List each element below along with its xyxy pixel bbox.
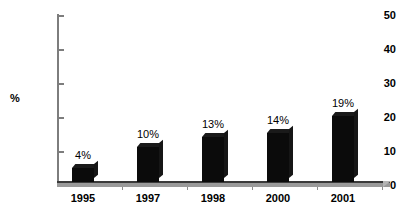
data-label-2001: 19% bbox=[318, 98, 368, 109]
bar-1997[interactable] bbox=[137, 147, 159, 182]
y-tick-label-40: 40 bbox=[352, 44, 404, 55]
y-tick-mark-40 bbox=[59, 49, 64, 51]
floor-right-bevel bbox=[383, 181, 391, 187]
y-tick-label-50: 50 bbox=[352, 10, 404, 21]
bar-side-face bbox=[224, 130, 228, 178]
y-tick-label-30: 30 bbox=[352, 78, 404, 89]
x-axis-label-2001: 2001 bbox=[318, 193, 368, 204]
y-tick-label-10: 10 bbox=[352, 146, 404, 157]
x-axis-label-1997: 1997 bbox=[123, 193, 173, 204]
x-axis-label-1998: 1998 bbox=[188, 193, 238, 204]
x-axis-label-1995: 1995 bbox=[58, 193, 108, 204]
y-tick-mark-20 bbox=[59, 117, 64, 119]
bar-chart: % 50 40 30 20 10 0 4 bbox=[0, 0, 404, 220]
bar-1998[interactable] bbox=[202, 137, 224, 182]
bar-side-face bbox=[289, 126, 293, 178]
bar-2001[interactable] bbox=[332, 116, 354, 182]
floor-face bbox=[57, 183, 390, 187]
bar-2000[interactable] bbox=[267, 133, 289, 182]
bar-side-face bbox=[159, 140, 163, 178]
data-label-1998: 13% bbox=[188, 119, 238, 130]
y-tick-label-20: 20 bbox=[352, 112, 404, 123]
bar-side-face bbox=[354, 109, 358, 178]
y-axis-title: % bbox=[10, 93, 20, 104]
bar-1995[interactable] bbox=[72, 168, 94, 182]
data-label-1997: 10% bbox=[123, 129, 173, 140]
data-label-1995: 4% bbox=[58, 150, 108, 161]
y-tick-mark-50 bbox=[59, 15, 64, 17]
x-axis-label-2000: 2000 bbox=[253, 193, 303, 204]
y-tick-mark-30 bbox=[59, 83, 64, 85]
data-label-2000: 14% bbox=[253, 115, 303, 126]
bar-side-face bbox=[94, 161, 98, 178]
